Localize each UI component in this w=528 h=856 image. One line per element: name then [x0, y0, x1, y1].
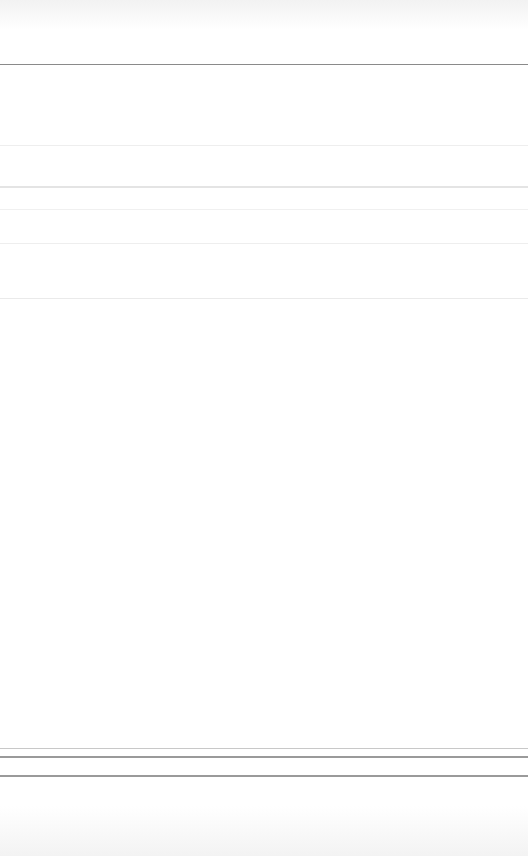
horizontal-divider [0, 756, 528, 758]
horizontal-divider [0, 145, 528, 146]
header-area [0, 0, 528, 30]
horizontal-divider [0, 775, 528, 777]
horizontal-divider [0, 209, 528, 210]
horizontal-divider [0, 748, 528, 749]
horizontal-divider [0, 298, 528, 299]
horizontal-divider [0, 64, 528, 65]
horizontal-divider [0, 243, 528, 244]
footer-area [0, 806, 528, 856]
horizontal-divider [0, 186, 528, 188]
